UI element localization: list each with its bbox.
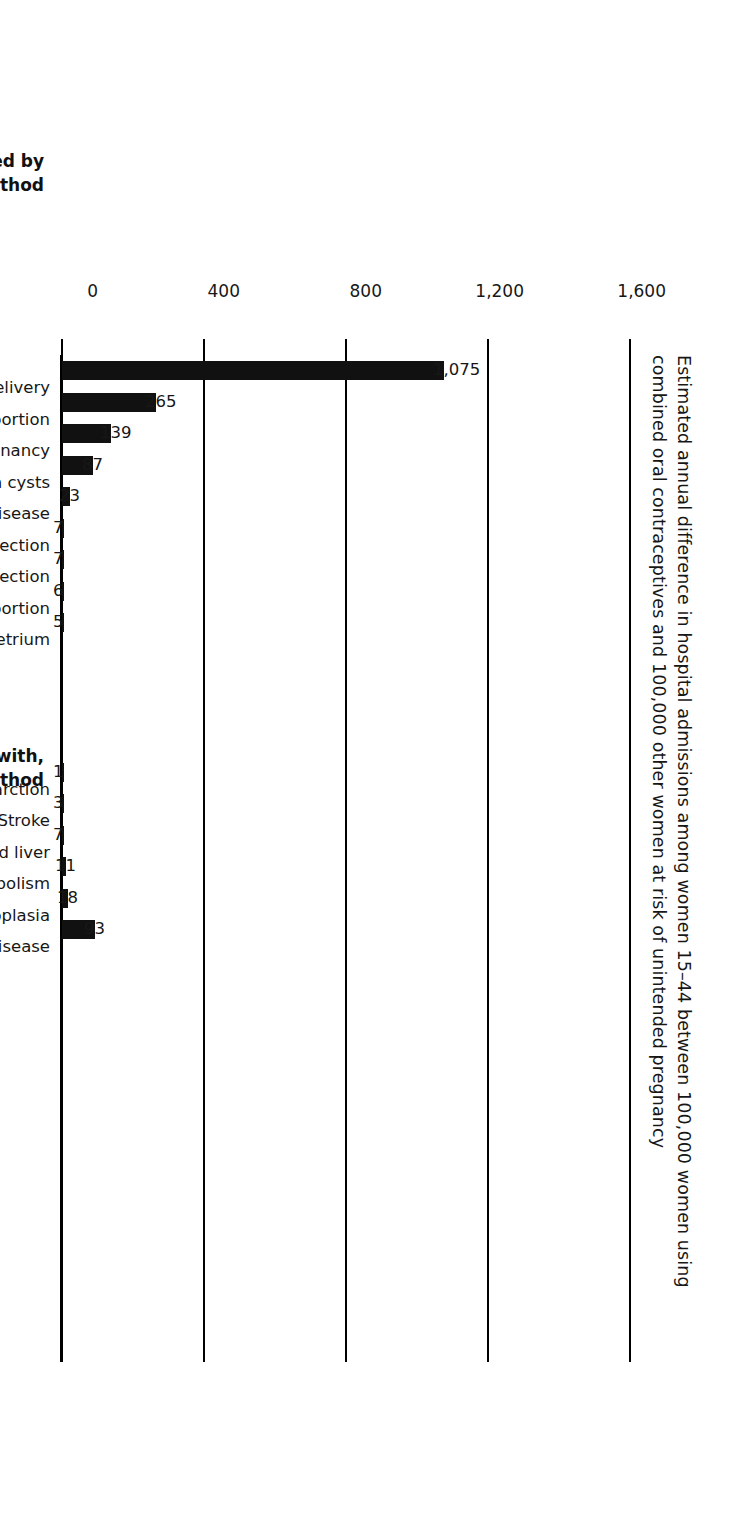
bar-value-label: 7 (54, 549, 65, 568)
category-label: Venous thrombosis and embolism (0, 874, 50, 893)
bar-value-label: 139 (100, 423, 132, 442)
bar-value-label: 23 (59, 486, 80, 505)
y-tick-label: 1,600 (594, 281, 666, 301)
bar-value-label: 3 (53, 793, 64, 812)
bar-value-label: 87 (82, 455, 103, 474)
tick-mark (61, 339, 63, 355)
tick-mark (629, 339, 631, 355)
chart-title: Estimated annual difference in hospital … (646, 355, 696, 1365)
bar-value-label: 7 (54, 518, 65, 537)
rotated-figure-stage: Estimated annual difference in hospital … (0, 0, 738, 1523)
bar-value-label: 265 (145, 392, 177, 411)
group-heading-avoided-line-1: Hospital admissions avoided by (0, 150, 44, 174)
category-label: Cesarean delivery (0, 378, 50, 397)
group-heading-avoided-line-2: use of the method (0, 174, 44, 198)
bar (62, 361, 444, 380)
bar-value-label: 7 (54, 825, 65, 844)
category-label: Invasive cancers of ovary and endometriu… (0, 630, 50, 649)
tick-mark (345, 339, 347, 355)
category-label: Cervical intraepithelial neoplasia (0, 906, 50, 925)
chart-title-line-2: combined oral contraceptives and 100,000… (646, 355, 671, 1365)
category-label: Ectopic pregnancy (0, 441, 50, 460)
group-heading-associated-line-1: Hospital admissions associated with, (0, 745, 44, 769)
group-heading-associated-line-2: or not avoided by, use of the method (0, 769, 44, 793)
category-label: Complications of induced abortion (0, 599, 50, 618)
plot-area: 04008001,2001,600 1,07526513987237765137… (62, 355, 630, 1362)
bar-value-label: 18 (57, 888, 78, 907)
bar-value-label: 6 (53, 581, 64, 600)
category-label: Ovarian cysts (0, 473, 50, 492)
tick-mark (203, 339, 205, 355)
category-label: Upper genital tract infection (0, 536, 50, 555)
y-tick-label: 400 (168, 281, 240, 301)
bar (62, 393, 156, 412)
bars-layer: 1,07526513987237765137111893 (62, 355, 630, 1362)
category-label: Stroke (0, 811, 50, 830)
category-label: Benign breast disease (0, 504, 50, 523)
tick-mark (487, 339, 489, 355)
bar-chart: Estimated annual difference in hospital … (0, 0, 738, 1523)
y-tick-label: 0 (26, 281, 98, 301)
category-label: Spontaneous abortion (0, 410, 50, 429)
y-tick-label: 800 (310, 281, 382, 301)
bar-value-label: 5 (53, 612, 64, 631)
bar-value-label: 1,075 (433, 360, 480, 379)
chart-title-line-1: Estimated annual difference in hospital … (674, 355, 694, 1288)
bar-value-label: 1 (53, 762, 64, 781)
y-tick-label: 1,200 (452, 281, 524, 301)
category-label: Urinary tract infection (0, 567, 50, 586)
category-label: Gallbladder disease (0, 937, 50, 956)
bar-value-label: 93 (84, 919, 105, 938)
category-label: Invasive cancers of breast, cervix, and … (0, 843, 50, 862)
bar-value-label: 11 (55, 856, 76, 875)
